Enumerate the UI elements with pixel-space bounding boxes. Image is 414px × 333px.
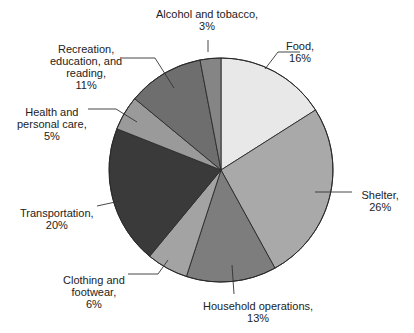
slice-label-line: footwear, — [63, 286, 125, 298]
slice-label-line: Alcohol and tobacco, — [156, 8, 258, 20]
slice-label: Transportation,20% — [20, 207, 94, 231]
slice-label-line: Food, — [286, 40, 314, 52]
slice-label: Food,16% — [286, 40, 314, 64]
slice-label: Household operations,13% — [203, 300, 313, 324]
slice-label-line: reading, — [50, 67, 122, 79]
slice-label-line: 6% — [63, 298, 125, 310]
slice-label: Alcohol and tobacco,3% — [156, 8, 258, 32]
slice-label-line: Clothing and — [63, 274, 125, 286]
slice-label-line: 5% — [17, 130, 87, 142]
slice-label: Recreation,education, andreading,11% — [50, 43, 122, 91]
slice-label-line: 3% — [156, 20, 258, 32]
slice-label-line: Recreation, — [50, 43, 122, 55]
slice-label-line: Health and — [17, 106, 87, 118]
slice-label-line: 11% — [50, 79, 122, 91]
slice-label-line: Household operations, — [203, 300, 313, 312]
slice-label: Health andpersonal care,5% — [17, 106, 87, 142]
slice-label-line: personal care, — [17, 118, 87, 130]
slice-label-line: Transportation, — [20, 207, 94, 219]
slice-label: Clothing andfootwear,6% — [63, 274, 125, 310]
slice-label-line: 26% — [362, 201, 399, 213]
slice-label-line: 20% — [20, 219, 94, 231]
slice-label-line: education, and — [50, 55, 122, 67]
slice-label-line: 16% — [286, 52, 314, 64]
slice-label-line: 13% — [203, 312, 313, 324]
pie-chart: Food,16%Shelter,26%Household operations,… — [0, 0, 414, 333]
slice-label-line: Shelter, — [362, 189, 399, 201]
slice-label: Shelter,26% — [362, 189, 399, 213]
